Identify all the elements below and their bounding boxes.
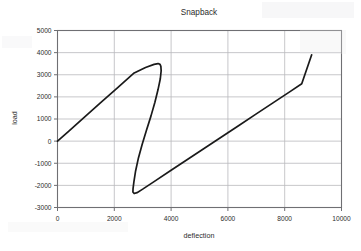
x-tick-label: 10000 xyxy=(332,215,351,222)
chart-figure: 0200040006000800010000 50004000300020001… xyxy=(0,0,361,251)
y-axis-label: load xyxy=(10,111,19,125)
x-tick-label: 6000 xyxy=(221,215,236,222)
y-tick-label: -2000 xyxy=(35,182,52,189)
x-tick-label: 4000 xyxy=(164,215,179,222)
x-tick-label: 0 xyxy=(56,215,60,222)
x-tick-label: 8000 xyxy=(277,215,292,222)
snapback-line-chart: 0200040006000800010000 50004000300020001… xyxy=(0,0,361,251)
y-axis-tick-labels: 500040003000200010000-1000-2000-3000 xyxy=(35,27,52,211)
grid-lines xyxy=(58,31,342,208)
x-axis-label: deflection xyxy=(184,231,215,240)
series-line-snapback xyxy=(58,55,312,194)
tick-marks xyxy=(54,31,342,212)
y-tick-label: -3000 xyxy=(35,204,52,211)
y-tick-label: 4000 xyxy=(37,49,52,56)
y-tick-label: -1000 xyxy=(35,160,52,167)
y-tick-label: 5000 xyxy=(37,27,52,34)
data-series-snapback xyxy=(58,55,312,194)
y-tick-label: 3000 xyxy=(37,71,52,78)
y-tick-label: 2000 xyxy=(37,93,52,100)
chart-title: Snapback xyxy=(181,8,218,17)
y-tick-label: 1000 xyxy=(37,115,52,122)
x-tick-label: 2000 xyxy=(107,215,122,222)
y-tick-label: 0 xyxy=(48,138,52,145)
x-axis-tick-labels: 0200040006000800010000 xyxy=(56,215,351,222)
